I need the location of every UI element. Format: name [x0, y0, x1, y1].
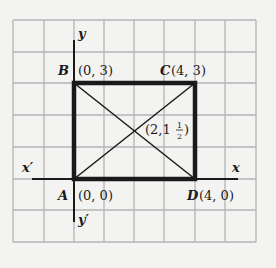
x-neg-axis-label: x′ [21, 160, 34, 175]
point-b-coords: (0, 3) [78, 63, 113, 78]
coordinate-diagram: y y′ x x′ B (0, 3) C (4, 3) A (0, 0) D (… [0, 0, 276, 268]
x-axis-label: x [231, 160, 240, 175]
center-label-prefix: (2,1 [145, 122, 171, 137]
point-a-letter: A [56, 188, 68, 203]
point-d-letter: D [186, 188, 199, 203]
point-d-coords: (4, 0) [199, 188, 234, 203]
center-label-suffix: ) [184, 122, 189, 137]
point-c-coords: (4, 3) [171, 63, 206, 78]
y-neg-axis-label: y′ [77, 212, 90, 227]
point-c-letter: C [160, 63, 171, 78]
center-frac-den: 2 [177, 132, 182, 141]
center-frac-num: 1 [177, 121, 182, 130]
center-label: (2,1 1 2 ) [145, 121, 189, 141]
point-b-letter: B [57, 63, 69, 78]
point-a-coords: (0, 0) [78, 188, 113, 203]
y-axis-label: y [77, 26, 87, 41]
